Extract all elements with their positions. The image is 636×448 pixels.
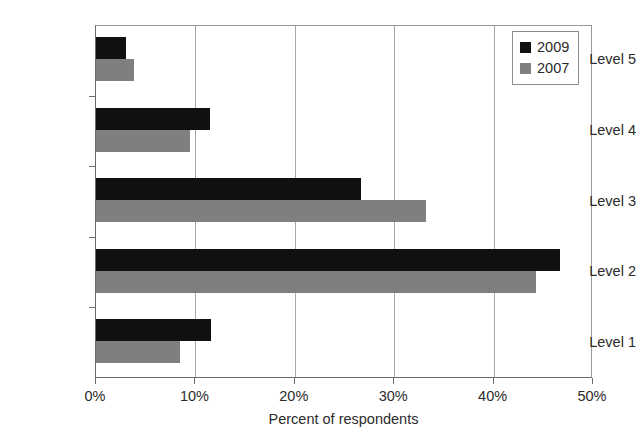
y-axis-label: Level 3 [550, 193, 636, 209]
bar-group [96, 167, 591, 238]
x-axis-tick [493, 378, 494, 384]
legend-label: 2009 [537, 40, 569, 55]
x-axis-label: 40% [463, 388, 523, 404]
y-axis-label: Level 4 [550, 122, 636, 138]
bar-2009 [96, 37, 126, 59]
y-axis-label: Level 1 [550, 334, 636, 350]
legend-item: 2009 [520, 37, 569, 58]
x-axis-label: 30% [363, 388, 423, 404]
bar-2007 [96, 130, 190, 152]
x-axis-tick [393, 378, 394, 384]
x-axis-label: 50% [562, 388, 622, 404]
y-axis-tick [89, 237, 95, 238]
x-axis-title: Percent of respondents [95, 411, 592, 427]
bar-2009 [96, 319, 211, 341]
bar-2009 [96, 249, 560, 271]
y-axis-tick [89, 96, 95, 97]
y-axis-tick [89, 307, 95, 308]
y-axis-label: Level 2 [550, 263, 636, 279]
x-axis-tick [592, 378, 593, 384]
y-axis-tick [89, 166, 95, 167]
bar-2009 [96, 178, 361, 200]
bar-group [96, 97, 591, 168]
gray-square-swatch [520, 63, 531, 74]
bar-chart: Level 5Level 4Level 3Level 2Level 1 0%10… [0, 0, 636, 448]
x-axis-tick [95, 378, 96, 384]
bar-2007 [96, 341, 180, 363]
bar-2009 [96, 108, 210, 130]
bar-2007 [96, 271, 536, 293]
x-axis-label: 20% [264, 388, 324, 404]
legend-label: 2007 [537, 61, 569, 76]
chart-legend: 20092007 [512, 31, 579, 85]
x-axis-tick [194, 378, 195, 384]
x-axis-tick [294, 378, 295, 384]
x-axis-label: 0% [65, 388, 125, 404]
bar-group [96, 308, 591, 379]
bar-2007 [96, 59, 134, 81]
black-square-swatch [520, 42, 531, 53]
x-axis-label: 10% [164, 388, 224, 404]
bar-group [96, 238, 591, 309]
legend-item: 2007 [520, 58, 569, 79]
bar-2007 [96, 200, 426, 222]
